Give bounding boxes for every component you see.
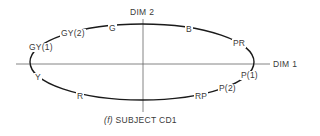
point-label-r: R bbox=[76, 92, 84, 101]
point-label-y: Y bbox=[34, 73, 42, 82]
caption-panel-letter: (f) bbox=[104, 115, 113, 125]
caption-subject: SUBJECT CD1 bbox=[116, 115, 177, 125]
point-label-g: G bbox=[108, 24, 117, 33]
point-label-gy2: GY(2) bbox=[60, 29, 86, 38]
point-label-b: B bbox=[185, 25, 193, 34]
dim1-label: DIM 1 bbox=[273, 60, 297, 69]
point-label-pr: PR bbox=[232, 39, 246, 48]
point-label-gy1: GY(1) bbox=[28, 43, 54, 52]
point-label-p1: P(1) bbox=[240, 71, 259, 80]
figure-caption: (f) SUBJECT CD1 bbox=[104, 116, 177, 125]
point-label-p2: P(2) bbox=[218, 84, 237, 93]
point-label-rp: RP bbox=[194, 92, 208, 101]
dim2-label: DIM 2 bbox=[130, 8, 154, 17]
